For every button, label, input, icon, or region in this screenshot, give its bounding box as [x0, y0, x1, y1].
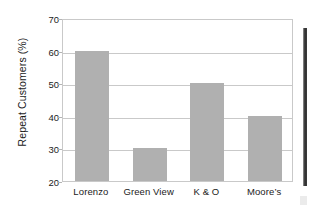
- page-edge-artifact: [303, 28, 307, 186]
- plot-area: [62, 19, 293, 182]
- y-tick-mark: [57, 182, 62, 183]
- x-tick-label: K & O: [193, 186, 219, 197]
- bar: [75, 51, 109, 181]
- bar: [190, 83, 224, 181]
- y-tick-label: 70: [29, 14, 59, 25]
- bar: [248, 116, 282, 181]
- y-tick-label: 30: [29, 144, 59, 155]
- y-tick-label: 40: [29, 111, 59, 122]
- page-edge-smudge: [300, 196, 307, 205]
- y-axis-title: Repeat Customers (%): [16, 7, 28, 177]
- y-tick-label: 50: [29, 79, 59, 90]
- y-tick-label: 20: [29, 177, 59, 188]
- y-tick-label: 60: [29, 46, 59, 57]
- x-tick-label: Moore’s: [247, 186, 281, 197]
- bar: [133, 148, 167, 181]
- bar-chart-figure: Repeat Customers (%) 203040506070 Lorenz…: [0, 0, 313, 215]
- x-tick-label: Green View: [123, 186, 173, 197]
- x-tick-label: Lorenzo: [73, 186, 108, 197]
